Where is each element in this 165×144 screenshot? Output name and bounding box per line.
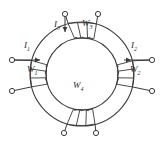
label-w3: W3 [82,18,93,30]
label-i3: I3 [53,19,60,31]
toroidal-winding-figure: I1 I2 I3 W1 W2 W3 W4 [0,0,165,144]
diagram-labels: I1 I2 I3 W1 W2 W3 W4 [23,18,141,92]
label-i1: I1 [23,40,30,52]
label-w4: W4 [73,80,84,92]
terminal-t-bottom-left [61,130,66,135]
diagram-canvas: I1 I2 I3 W1 W2 W3 W4 [0,0,165,144]
terminal-t-bottom-right [93,130,98,135]
terminal-t-right-upper [149,57,154,62]
winding-w4 [64,109,96,133]
label-i3-sub: 3 [56,25,60,31]
label-w4-sub: 4 [81,86,84,92]
label-w2-sub: 2 [138,70,141,76]
terminal-t-top-right [95,11,100,16]
terminal-t-left-lower [9,88,14,93]
label-i1-sub: 1 [27,46,30,52]
terminal-t-left-upper [9,57,14,62]
label-w2: W2 [130,64,141,76]
label-w1: W1 [27,64,38,76]
label-w3-sub: 3 [89,24,93,30]
label-i2: I2 [130,40,137,52]
current-arrow-i1 [14,58,40,63]
label-i2-sub: 2 [134,46,137,52]
terminal-t-top-left [62,11,67,16]
core-inner-circle [46,38,118,110]
terminal-t-right-lower [149,88,154,93]
label-w1-sub: 1 [35,70,38,76]
